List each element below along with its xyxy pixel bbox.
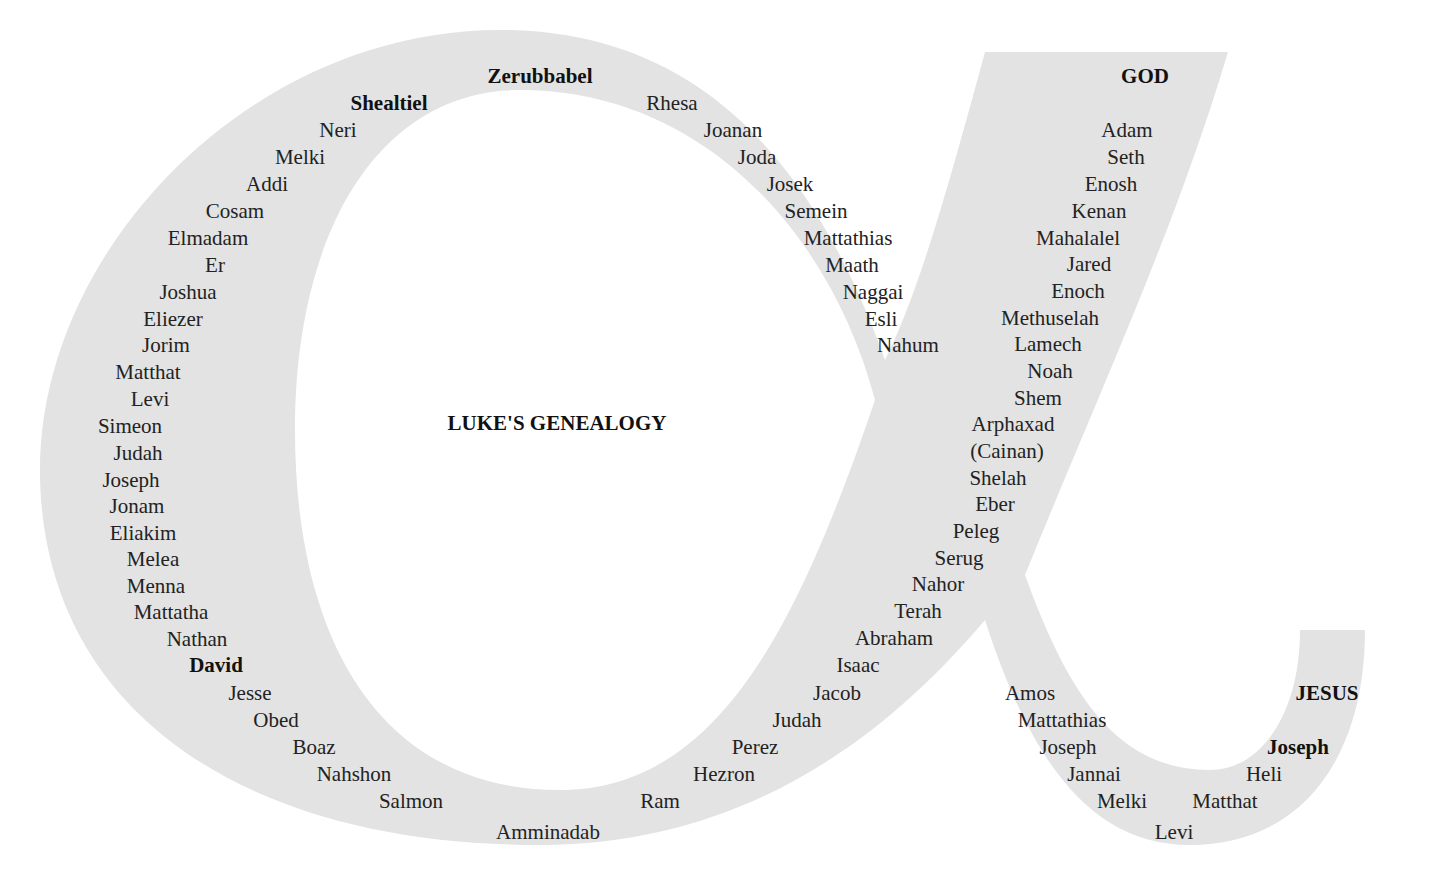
genealogy-name: Jesse xyxy=(228,681,271,705)
genealogy-name: Mattathias xyxy=(1018,708,1107,732)
genealogy-name: Melki xyxy=(275,145,325,169)
genealogy-name: Heli xyxy=(1246,762,1282,786)
genealogy-name: David xyxy=(189,653,243,677)
genealogy-name: (Cainan) xyxy=(970,439,1043,463)
genealogy-name: Melea xyxy=(127,547,179,571)
genealogy-name: Methuselah xyxy=(1001,306,1099,330)
genealogy-name: Er xyxy=(205,253,225,277)
genealogy-name: Ram xyxy=(640,789,680,813)
genealogy-name: Rhesa xyxy=(646,91,697,115)
genealogy-name: Eliakim xyxy=(110,521,177,545)
genealogy-name: Simeon xyxy=(98,414,162,438)
genealogy-name: Joda xyxy=(738,145,777,169)
genealogy-name: Abraham xyxy=(855,626,933,650)
genealogy-name: Matthat xyxy=(1192,789,1257,813)
genealogy-name: Salmon xyxy=(379,789,443,813)
genealogy-name: Zerubbabel xyxy=(487,64,592,88)
genealogy-name: Jorim xyxy=(142,333,190,357)
genealogy-name: Perez xyxy=(732,735,779,759)
genealogy-name: Enosh xyxy=(1085,172,1138,196)
genealogy-name: Adam xyxy=(1101,118,1152,142)
genealogy-name: Esli xyxy=(865,307,898,331)
genealogy-name: Joanan xyxy=(704,118,762,142)
genealogy-name: Enoch xyxy=(1051,279,1105,303)
genealogy-name: Judah xyxy=(773,708,822,732)
genealogy-name: Seth xyxy=(1107,145,1144,169)
genealogy-name: Amos xyxy=(1005,681,1055,705)
genealogy-name: Obed xyxy=(253,708,299,732)
genealogy-name: Menna xyxy=(127,574,185,598)
genealogy-name: Jared xyxy=(1067,252,1111,276)
genealogy-name: Shelah xyxy=(969,466,1026,490)
genealogy-name: Jannai xyxy=(1067,762,1121,786)
genealogy-name: Shealtiel xyxy=(351,91,428,115)
genealogy-name: Terah xyxy=(894,599,942,623)
genealogy-name: Maath xyxy=(825,253,879,277)
diagram-title: LUKE'S GENEALOGY xyxy=(448,411,667,436)
genealogy-name: Arphaxad xyxy=(972,412,1055,436)
genealogy-name: Levi xyxy=(131,387,169,411)
genealogy-name: Noah xyxy=(1027,359,1073,383)
genealogy-name: Judah xyxy=(114,441,163,465)
genealogy-name: Eber xyxy=(975,492,1015,516)
genealogy-name: Mahalalel xyxy=(1036,226,1120,250)
genealogy-name: Boaz xyxy=(292,735,335,759)
genealogy-name: Peleg xyxy=(953,519,1000,543)
genealogy-name: Nahshon xyxy=(317,762,392,786)
genealogy-name: Naggai xyxy=(843,280,904,304)
genealogy-name: Elmadam xyxy=(168,226,248,250)
genealogy-name: Nahor xyxy=(912,572,964,596)
genealogy-name: Nahum xyxy=(877,333,939,357)
genealogy-name: Isaac xyxy=(836,653,879,677)
genealogy-name: Matthat xyxy=(115,360,180,384)
genealogy-name: Melki xyxy=(1097,789,1147,813)
genealogy-name: Josek xyxy=(767,172,814,196)
genealogy-name: Semein xyxy=(785,199,848,223)
genealogy-name: Serug xyxy=(935,546,984,570)
genealogy-name: Neri xyxy=(319,118,356,142)
genealogy-name: Joseph xyxy=(1267,735,1329,759)
genealogy-name: Nathan xyxy=(167,627,228,651)
genealogy-name: Joshua xyxy=(159,280,216,304)
genealogy-name: Joseph xyxy=(102,468,159,492)
genealogy-name: GOD xyxy=(1121,64,1169,88)
genealogy-name: Joseph xyxy=(1039,735,1096,759)
genealogy-name: Cosam xyxy=(206,199,264,223)
genealogy-name: Levi xyxy=(1155,820,1193,844)
genealogy-name: Mattatha xyxy=(134,600,209,624)
genealogy-name: Eliezer xyxy=(143,307,202,331)
genealogy-name: JESUS xyxy=(1295,681,1358,705)
genealogy-name: Amminadab xyxy=(496,820,600,844)
genealogy-name: Jonam xyxy=(110,494,165,518)
genealogy-name: Kenan xyxy=(1072,199,1127,223)
genealogy-name: Jacob xyxy=(813,681,861,705)
genealogy-name: Mattathias xyxy=(804,226,893,250)
genealogy-name: Hezron xyxy=(693,762,755,786)
genealogy-name: Addi xyxy=(246,172,288,196)
genealogy-name: Shem xyxy=(1014,386,1062,410)
genealogy-name: Lamech xyxy=(1014,332,1082,356)
